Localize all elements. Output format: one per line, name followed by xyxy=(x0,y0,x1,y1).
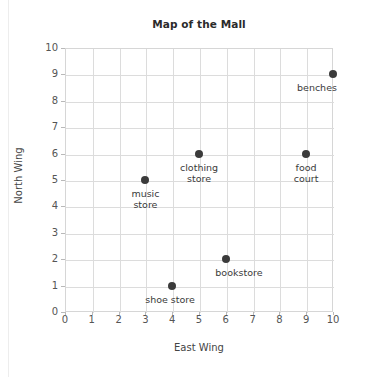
x-tick-mark xyxy=(333,312,334,315)
y-tick-mark xyxy=(61,206,65,207)
x-tick-mark xyxy=(65,312,66,315)
gridline-horizontal xyxy=(66,128,334,129)
gridline-horizontal xyxy=(66,102,334,103)
gridline-horizontal xyxy=(66,75,334,76)
gridline-horizontal xyxy=(66,234,334,235)
data-point-label: food court xyxy=(294,162,319,184)
y-tick-label: 8 xyxy=(28,95,58,106)
y-tick-mark xyxy=(61,180,65,181)
y-tick-label: 1 xyxy=(28,280,58,291)
x-tick-mark xyxy=(172,312,173,315)
data-point xyxy=(195,150,203,158)
y-tick-label: 6 xyxy=(28,148,58,159)
data-point-label: music store xyxy=(131,188,159,210)
y-tick-mark xyxy=(61,127,65,128)
y-tick-label: 0 xyxy=(28,306,58,317)
x-tick-label: 6 xyxy=(211,314,241,325)
y-tick-label: 5 xyxy=(28,174,58,185)
x-tick-label: 5 xyxy=(184,314,214,325)
y-axis-title: North Wing xyxy=(13,136,24,216)
data-point-label: benches xyxy=(297,82,337,93)
data-point-label: shoe store xyxy=(145,294,195,305)
data-point xyxy=(302,150,310,158)
y-tick-label: 10 xyxy=(28,42,58,53)
x-axis-title: East Wing xyxy=(65,342,333,353)
y-tick-label: 4 xyxy=(28,200,58,211)
x-tick-mark xyxy=(145,312,146,315)
x-tick-mark xyxy=(306,312,307,315)
y-tick-label: 2 xyxy=(28,253,58,264)
x-tick-label: 1 xyxy=(77,314,107,325)
chart-figure: Map of the Mall 012345678910012345678910… xyxy=(0,0,369,377)
x-tick-mark xyxy=(279,312,280,315)
x-tick-mark xyxy=(253,312,254,315)
y-tick-mark xyxy=(61,101,65,102)
data-point-label: clothing store xyxy=(180,162,218,184)
x-tick-mark xyxy=(226,312,227,315)
x-tick-mark xyxy=(199,312,200,315)
x-tick-label: 9 xyxy=(291,314,321,325)
y-tick-mark xyxy=(61,154,65,155)
y-tick-label: 9 xyxy=(28,68,58,79)
x-tick-label: 4 xyxy=(157,314,187,325)
gridline-horizontal xyxy=(66,207,334,208)
data-point xyxy=(329,70,337,78)
chart-title: Map of the Mall xyxy=(65,18,333,30)
x-tick-label: 7 xyxy=(238,314,268,325)
data-point-label: bookstore xyxy=(215,267,262,278)
x-tick-label: 10 xyxy=(318,314,348,325)
x-tick-label: 3 xyxy=(130,314,160,325)
scan-edge-artifact xyxy=(8,0,9,377)
y-tick-mark xyxy=(61,233,65,234)
gridline-horizontal xyxy=(66,287,334,288)
gridline-horizontal xyxy=(66,260,334,261)
x-tick-label: 2 xyxy=(104,314,134,325)
x-tick-mark xyxy=(92,312,93,315)
y-tick-label: 7 xyxy=(28,121,58,132)
x-tick-label: 8 xyxy=(264,314,294,325)
data-point xyxy=(168,282,176,290)
y-tick-mark xyxy=(61,48,65,49)
x-tick-mark xyxy=(119,312,120,315)
y-tick-mark xyxy=(61,312,65,313)
y-tick-mark xyxy=(61,74,65,75)
y-tick-label: 3 xyxy=(28,227,58,238)
y-tick-mark xyxy=(61,259,65,260)
y-tick-mark xyxy=(61,286,65,287)
data-point xyxy=(222,255,230,263)
